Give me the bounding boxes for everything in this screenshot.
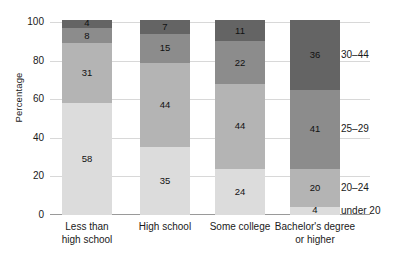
bar-segment: 11	[215, 20, 265, 41]
bar-segment-value: 22	[235, 58, 246, 68]
bar-segment: 58	[62, 103, 112, 215]
x-category-label-line: or higher	[260, 234, 370, 247]
legend-label-under-20: under 20	[341, 206, 380, 216]
bar-segment-value: 58	[82, 154, 93, 164]
y-tick-label-40: 40	[8, 133, 44, 143]
bar-segment-value: 41	[310, 124, 321, 134]
y-tick-label-60: 60	[8, 94, 44, 104]
y-tick-label-20: 20	[8, 171, 44, 181]
legend-label-30-44: 30–44	[341, 50, 369, 60]
bar-segment-value: 8	[84, 31, 89, 41]
bar-segment-value: 15	[160, 43, 171, 53]
bar-segment: 36	[290, 20, 340, 89]
bar-segment: 44	[140, 63, 190, 148]
bar-4: 3641204	[290, 20, 340, 215]
x-category-label-line: high school	[32, 234, 142, 247]
bar-segment: 22	[215, 41, 265, 83]
bar-segment-value: 36	[310, 50, 321, 60]
bar-segment: 35	[140, 147, 190, 215]
bar-segment: 20	[290, 169, 340, 208]
bar-segment: 8	[62, 28, 112, 43]
bar-segment: 4	[290, 207, 340, 215]
bar-segment-value: 44	[235, 121, 246, 131]
bar-segment: 15	[140, 34, 190, 63]
y-tick-label-100: 100	[8, 17, 44, 27]
bar-segment-value: 7	[162, 22, 167, 32]
bar-segment: 24	[215, 169, 265, 215]
bar-segment-value: 20	[310, 183, 321, 193]
bar-2: 7154435	[140, 20, 190, 215]
bar-segment-value: 35	[160, 176, 171, 186]
bar-segment: 31	[62, 43, 112, 103]
bar-segment: 44	[215, 84, 265, 169]
bar-segment-value: 11	[235, 26, 245, 36]
bar-segment-value: 4	[312, 205, 317, 215]
bar-3: 11224424	[215, 20, 265, 215]
bar-segment-value: 44	[160, 100, 171, 110]
bar-segment: 4	[62, 20, 112, 28]
y-tick-label-0: 0	[8, 210, 44, 220]
x-category-label: Bachelor's degreeor higher	[260, 221, 370, 246]
legend-label-20-24: 20–24	[341, 183, 369, 193]
y-tick-label-80: 80	[8, 56, 44, 66]
bar-segment-value: 24	[235, 187, 246, 197]
legend-label-25-29: 25–29	[341, 124, 369, 134]
plot-area: 4831587154435112244243641204	[50, 22, 370, 215]
bar-segment-value: 31	[82, 68, 93, 78]
x-category-label-line: Bachelor's degree	[260, 221, 370, 234]
stacked-bar-chart: Percentage 020406080100 4831587154435112…	[0, 0, 393, 267]
bar-segment-value: 4	[84, 18, 89, 28]
bar-segment: 41	[290, 90, 340, 169]
bar-segment: 7	[140, 20, 190, 34]
bar-1: 483158	[62, 20, 112, 215]
